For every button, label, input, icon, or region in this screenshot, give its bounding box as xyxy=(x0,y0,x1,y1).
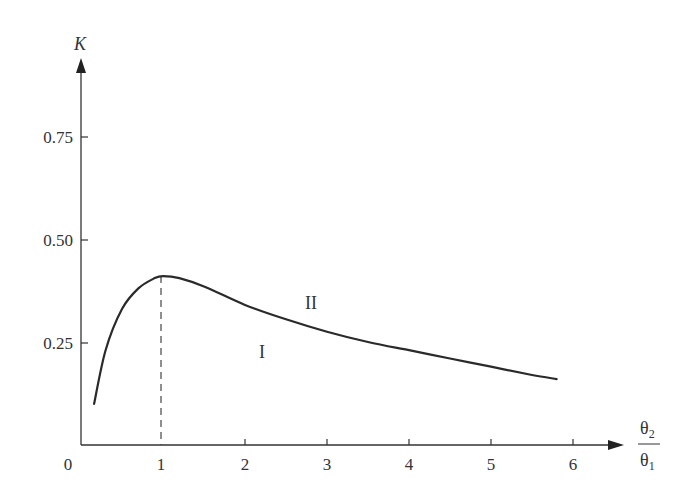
svg-text:θ2: θ2 xyxy=(640,418,655,441)
y-axis-label: K xyxy=(73,34,87,54)
x-tick-label: 0 xyxy=(64,455,73,474)
y-tick-label: 0.25 xyxy=(43,334,73,353)
x-tick-label: 2 xyxy=(241,455,250,474)
data-curve xyxy=(94,276,556,404)
svg-text:θ1: θ1 xyxy=(640,450,655,473)
x-tick-label: 3 xyxy=(323,455,332,474)
x-tick-label: 5 xyxy=(487,455,496,474)
x-tick-label: 1 xyxy=(157,455,166,474)
region-label-i: I xyxy=(259,342,265,362)
x-axis-label: θ2 θ1 xyxy=(638,418,660,473)
y-tick-label: 0.75 xyxy=(43,128,73,147)
x-ticks: 0 1 2 3 4 5 6 xyxy=(64,439,578,474)
y-tick-label: 0.50 xyxy=(43,231,73,250)
y-axis-arrow-icon xyxy=(76,58,86,73)
x-axis-arrow-icon xyxy=(608,440,624,450)
region-label-ii: II xyxy=(305,293,317,313)
x-tick-label: 6 xyxy=(569,455,578,474)
x-tick-label: 4 xyxy=(405,455,414,474)
chart: K θ2 θ1 0.75 0.50 0.25 0 1 2 3 4 5 6 II … xyxy=(0,0,690,498)
